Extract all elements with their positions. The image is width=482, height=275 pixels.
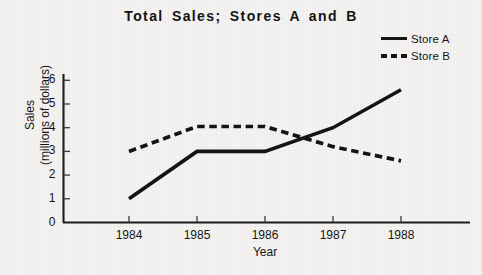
axes bbox=[63, 74, 470, 223]
x-tick-label: 1987 bbox=[313, 228, 353, 242]
x-tick-label: 1985 bbox=[177, 228, 217, 242]
x-axis-label: Year bbox=[195, 245, 335, 259]
y-axis-label-line2: (millions of dollars) bbox=[38, 35, 53, 195]
data-series bbox=[129, 90, 401, 199]
x-tick-label: 1988 bbox=[381, 228, 421, 242]
y-axis-label-line1: Sales bbox=[23, 35, 38, 195]
line-store-b bbox=[129, 127, 401, 161]
line-store-a bbox=[129, 90, 401, 199]
y-axis-label: Sales (millions of dollars) bbox=[23, 35, 53, 195]
y-tick-label: 0 bbox=[42, 215, 56, 229]
chart-figure: Total Sales; Stores A and B Store A Stor… bbox=[0, 0, 482, 275]
x-tick-label: 1984 bbox=[109, 228, 149, 242]
x-tick-label: 1986 bbox=[245, 228, 285, 242]
